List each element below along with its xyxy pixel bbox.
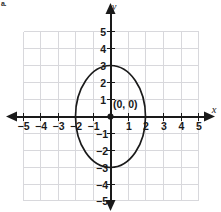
- y-tick-label: 5: [100, 26, 106, 38]
- y-tick-label: −5: [96, 195, 108, 207]
- x-tick-label: 4: [179, 120, 185, 132]
- center-point: [107, 113, 113, 119]
- y-tick-label: −2: [96, 145, 108, 157]
- y-axis-label: y: [111, 1, 117, 12]
- coordinate-plane: −5 −4 −3 −2 −1 1 2 3 4 5 5 4 3 2 1 −1 −2…: [0, 0, 221, 212]
- x-tick-label: −4: [35, 120, 47, 132]
- y-tick-label: 1: [100, 94, 106, 106]
- y-tick-label: −3: [96, 162, 108, 174]
- y-tick-label: −1: [96, 128, 108, 140]
- y-tick-label: 2: [100, 77, 106, 89]
- y-tick-label: 3: [100, 60, 106, 72]
- y-tick-label: 4: [100, 43, 106, 55]
- x-axis-label: x: [211, 104, 217, 115]
- graph-figure: a.: [0, 0, 221, 212]
- x-tick-label: 3: [161, 120, 167, 132]
- x-axis-arrow-left: [6, 112, 17, 122]
- x-tick-label: 2: [143, 120, 149, 132]
- x-tick-label: 1: [126, 120, 132, 132]
- center-point-label: (0, 0): [113, 98, 138, 110]
- x-tick-label: −3: [53, 120, 65, 132]
- x-tick-label: −5: [18, 120, 30, 132]
- y-tick-label: −4: [96, 179, 108, 191]
- x-tick-label: −2: [70, 120, 82, 132]
- x-tick-label: 5: [196, 120, 202, 132]
